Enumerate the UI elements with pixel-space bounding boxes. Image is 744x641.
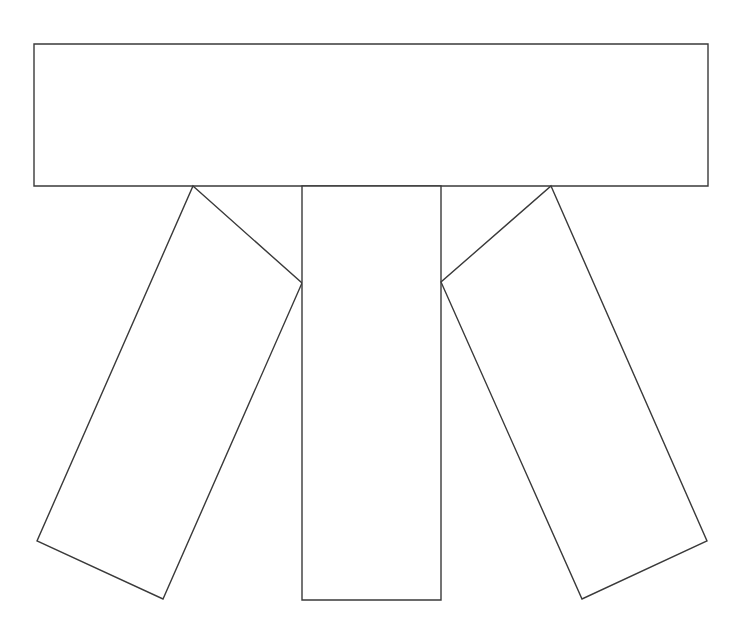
line-drawing-group xyxy=(34,44,708,600)
figure-canvas xyxy=(0,0,744,641)
table-top-shape xyxy=(34,44,708,186)
center-leg-shape xyxy=(302,186,441,600)
